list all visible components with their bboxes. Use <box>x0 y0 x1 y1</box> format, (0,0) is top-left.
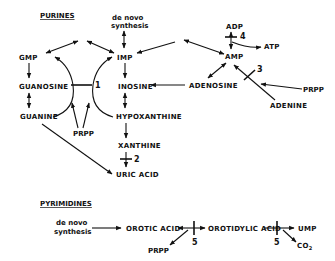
xanthine-node: XANTHINE <box>118 142 161 150</box>
guanosine-node: GUANOSINE <box>19 83 68 91</box>
uric-acid-node: URIC ACID <box>116 171 159 179</box>
atp-node: ATP <box>264 43 280 51</box>
purine-de-novo-label: de novo <box>112 14 144 22</box>
prpp-left-label: PRPP <box>73 130 94 138</box>
pyrimidine-de-novo-label: de novo <box>56 219 88 227</box>
enzyme-3-label: 3 <box>257 65 263 74</box>
enzyme-1-label: 1 <box>95 81 101 90</box>
gmp-node: GMP <box>19 54 38 62</box>
prpp-to-guanine-arc-arrow <box>72 103 78 128</box>
prpp-pyrimidine-label: PRPP <box>148 247 169 255</box>
metabolic-pathway-diagram: PURINES de novo synthesis GMP IMP GUANOS… <box>0 0 335 261</box>
pyrimidine-synthesis-label: synthesis <box>54 228 92 236</box>
ump-node: UMP <box>298 225 317 233</box>
enzyme-5b-label: 5 <box>274 238 280 247</box>
adenosine-node: ADENOSINE <box>189 82 238 90</box>
amp-adenosine-arrow <box>208 63 226 78</box>
inosine-node: INOSINE <box>118 83 153 91</box>
amp-to-atp-arrow <box>232 42 261 47</box>
orotidylic-acid-node: OROTIDYLIC ACID <box>208 225 281 233</box>
amp-to-imp-arrow <box>137 42 175 53</box>
co2-node: CO2 <box>297 242 313 251</box>
orotic-acid-node: OROTIC ACID <box>126 225 181 233</box>
purines-title: PURINES <box>40 12 75 20</box>
purine-synthesis-label: synthesis <box>111 22 149 30</box>
amp-node: AMP <box>225 53 243 61</box>
prpp-to-hypoxanthine-arc-arrow <box>83 103 89 128</box>
adenine-node: ADENINE <box>270 102 307 110</box>
hypoxanthine-node: HYPOXANTHINE <box>116 113 182 121</box>
enzyme-4-label: 4 <box>240 32 246 41</box>
guanine-node: GUANINE <box>20 113 58 121</box>
enzyme-2-label: 2 <box>134 155 140 164</box>
prpp-to-adenine-path-arrow <box>261 84 302 89</box>
gmp-imp-arrow-right <box>87 41 114 53</box>
pyrimidines-title: PYRIMIDINES <box>40 200 92 208</box>
prpp-right-label: PRPP <box>303 86 324 94</box>
enzyme-5a-label: 5 <box>192 238 198 247</box>
gmp-imp-arrow-left <box>46 41 78 53</box>
imp-amp-arrow <box>184 40 224 54</box>
imp-node: IMP <box>117 54 133 62</box>
co2-release-arrow <box>283 230 296 242</box>
adp-node: ADP <box>226 23 243 31</box>
